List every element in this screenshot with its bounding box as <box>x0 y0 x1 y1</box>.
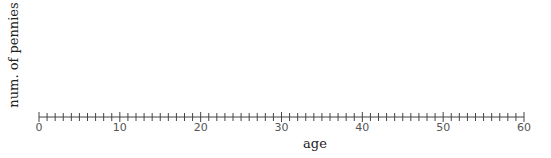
y-axis-label: num. of pennies <box>6 2 21 107</box>
y-axis-title: num. of pennies <box>6 2 21 107</box>
x-axis-label: age <box>303 136 327 151</box>
x-tick-label: 30 <box>275 121 289 134</box>
x-tick-label: 0 <box>36 121 43 134</box>
number-line-chart: num. of pennies 0102030405060 age <box>0 0 551 158</box>
x-axis-tick-labels: 0102030405060 <box>36 121 532 134</box>
x-tick-label: 60 <box>517 121 531 134</box>
x-tick-label: 50 <box>436 121 450 134</box>
x-tick-label: 20 <box>194 121 208 134</box>
x-tick-label: 10 <box>113 121 127 134</box>
x-tick-label: 40 <box>355 121 369 134</box>
